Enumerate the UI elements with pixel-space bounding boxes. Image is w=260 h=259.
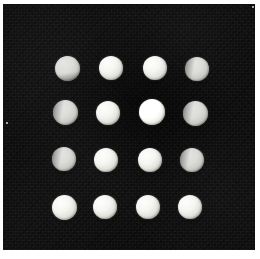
dark-background-field — [3, 4, 255, 250]
disc-r2c4 — [183, 101, 208, 126]
disc-r2c3 — [139, 99, 165, 125]
disc-r3c3 — [138, 148, 162, 172]
disc-shading — [99, 56, 123, 80]
disc-r2c1 — [53, 100, 78, 125]
disc-shading — [139, 99, 165, 125]
disc-shading — [52, 195, 77, 220]
disc-shading — [180, 148, 204, 172]
disc-r2c2 — [96, 101, 120, 125]
print-speck-1 — [6, 122, 8, 124]
photograph: Grid of sixteen pale discs on black fabr… — [0, 0, 260, 259]
disc-shading — [96, 101, 120, 125]
disc-r4c4 — [178, 195, 202, 219]
disc-shading — [94, 148, 118, 172]
disc-shading — [185, 57, 209, 81]
print-speck-2 — [252, 6, 254, 8]
disc-r3c4 — [180, 148, 204, 172]
disc-r4c3 — [136, 195, 160, 219]
disc-r1c3 — [143, 56, 167, 80]
disc-shading — [55, 56, 80, 81]
disc-r1c1 — [55, 56, 80, 81]
disc-r3c2 — [94, 148, 118, 172]
disc-shading — [52, 147, 76, 171]
disc-r3c1 — [52, 147, 76, 171]
fabric-grain-layer-2 — [3, 4, 255, 250]
disc-shading — [143, 56, 167, 80]
disc-shading — [136, 195, 160, 219]
fabric-grain-layer-3 — [3, 4, 255, 250]
disc-shading — [93, 195, 117, 219]
disc-r1c4 — [185, 57, 209, 81]
disc-shading — [178, 195, 202, 219]
disc-r4c2 — [93, 195, 117, 219]
disc-shading — [138, 148, 162, 172]
disc-shading — [53, 100, 78, 125]
disc-r1c2 — [99, 56, 123, 80]
fabric-grain-layer-1 — [3, 4, 255, 250]
disc-r4c1 — [52, 195, 77, 220]
disc-shading — [183, 101, 208, 126]
